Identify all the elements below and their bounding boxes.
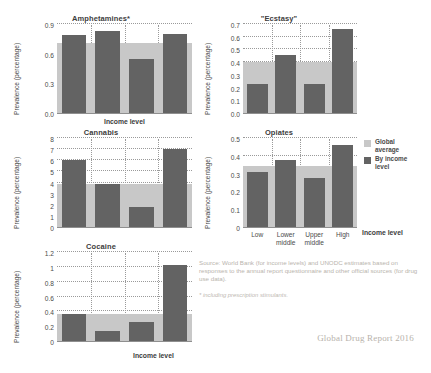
gridline-horizontal: [57, 137, 192, 138]
y-tick-label: 0.4: [199, 153, 240, 160]
bar-high: [163, 265, 187, 341]
y-tick-label: 0: [8, 339, 54, 346]
bar-high: [163, 34, 187, 113]
plot-canvas-amphetamines: [57, 25, 192, 114]
bar-high: [332, 29, 353, 113]
y-tick-label: 0.8: [8, 279, 54, 286]
y-tick-label: 4: [8, 180, 54, 187]
legend-swatch-by-income-level-icon: [364, 157, 371, 164]
y-tick-label: 1: [8, 264, 54, 271]
x-tick-label: Lowermiddle: [272, 231, 301, 246]
bar-lower-middle: [95, 184, 119, 227]
bar-lower-middle: [275, 55, 296, 113]
y-tick-label: 0.6: [199, 34, 240, 41]
chart-panel-amphetamines: Amphetamines* Prevalence (percentage) 0.…: [8, 14, 194, 120]
bar-upper-middle: [304, 84, 325, 113]
gridline-horizontal: [243, 23, 357, 24]
y-tick-label: 0.2: [8, 324, 54, 331]
source-note: Source: World Bank (for income levels) a…: [199, 259, 424, 284]
legend-label-by-income-level-line1: By income: [375, 155, 407, 162]
chart-panel-cocaine: Cocaine Prevalence (percentage) 00.20.40…: [8, 242, 194, 362]
plot-area-cocaine: [57, 253, 192, 342]
bar-low: [62, 160, 86, 227]
y-tick-label: 0.3: [8, 81, 54, 88]
plot-canvas-cannabis: [57, 139, 192, 228]
y-tick-label: 0: [199, 225, 240, 232]
y-tick-label: 0.9: [8, 22, 54, 29]
report-credit: Global Drug Report 2016: [317, 333, 414, 343]
legend-swatch-global-average-icon: [364, 140, 371, 147]
y-tick-label: 0.6: [8, 51, 54, 58]
x-axis-label-opiates: Income level: [362, 229, 403, 236]
y-tick-label: 1.2: [8, 250, 54, 257]
bar-upper-middle: [304, 178, 325, 227]
y-tick-label: 0.5: [199, 136, 240, 143]
y-tick-label: 0.0: [8, 111, 54, 118]
y-tick-label: 1: [8, 213, 54, 220]
y-tick-label: 0.4: [8, 309, 54, 316]
y-tick-label: 0.6: [8, 294, 54, 301]
chart-panel-cannabis: Cannabis Prevalence (percentage) 0123456…: [8, 128, 194, 234]
y-tick-label: 0: [8, 225, 54, 232]
x-axis-label-amphetamines: Income level: [104, 118, 145, 125]
bar-high: [332, 145, 353, 227]
x-tick-label: High: [329, 231, 358, 239]
bar-upper-middle: [129, 59, 153, 113]
y-tick-label: 0.3: [199, 72, 240, 79]
y-tick-label: 0.7: [199, 22, 240, 29]
plot-canvas-opiates: [243, 139, 357, 228]
bar-lower-middle: [275, 160, 296, 227]
y-tick-label: 5: [8, 169, 54, 176]
y-tick-label: 3: [8, 191, 54, 198]
bar-lower-middle: [95, 31, 119, 113]
y-tick-label: 0.4: [199, 60, 240, 67]
plot-area-opiates: [243, 139, 357, 228]
bar-low: [247, 172, 268, 227]
plot-canvas-cocaine: [57, 253, 192, 342]
legend-label-global-average-line1: Global: [375, 138, 395, 145]
x-tick-label: Low: [243, 231, 272, 239]
y-tick-label: 0.2: [199, 189, 240, 196]
gridline-horizontal: [57, 23, 192, 24]
plot-canvas-ecstasy: [243, 25, 357, 114]
bar-high: [163, 149, 187, 227]
legend-label-global-average: Globalaverage: [375, 138, 425, 153]
plot-area-ecstasy: [243, 25, 357, 114]
y-tick-label: 7: [8, 147, 54, 154]
bar-low: [62, 35, 86, 113]
bar-upper-middle: [129, 322, 153, 341]
x-tick-label: Uppermiddle: [300, 231, 329, 246]
legend-label-by-income-level-line2: level: [375, 163, 389, 170]
y-tick-label: 8: [8, 136, 54, 143]
y-tick-label: 0.2: [199, 85, 240, 92]
chart-panel-opiates: Opiates Prevalence (percentage) 00.10.20…: [199, 128, 359, 252]
bar-low: [247, 84, 268, 113]
legend-label-global-average-line2: average: [375, 146, 399, 153]
gridline-horizontal: [243, 137, 357, 138]
plot-area-cannabis: [57, 139, 192, 228]
y-tick-label: 0.0: [199, 111, 240, 118]
y-tick-label: 2: [8, 202, 54, 209]
bar-low: [62, 314, 86, 341]
footnote-text: * including prescription stimulants.: [199, 291, 424, 299]
plot-area-amphetamines: [57, 25, 192, 114]
gridline-horizontal: [57, 251, 192, 252]
x-axis-label-cocaine: Income level: [133, 352, 174, 359]
y-tick-label: 0.1: [199, 207, 240, 214]
y-tick-label: 0.3: [199, 171, 240, 178]
bar-lower-middle: [95, 331, 119, 341]
y-tick-label: 0.1: [199, 98, 240, 105]
y-tick-label: 6: [8, 158, 54, 165]
y-tick-label: 0.5: [199, 47, 240, 54]
chart-panel-ecstasy: "Ecstasy" Prevalence (percentage) 0.00.1…: [199, 14, 359, 120]
legend-label-by-income-level: By incomelevel: [375, 155, 425, 170]
cut-off-header-text: [8, 0, 208, 7]
bar-upper-middle: [129, 207, 153, 227]
